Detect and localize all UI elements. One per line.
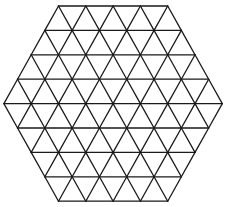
diagonal-grid-line xyxy=(127,128,141,152)
diagonal-grid-line xyxy=(168,30,182,54)
diagonal-grid-line xyxy=(140,79,154,103)
diagonal-grid-line xyxy=(154,6,168,30)
diagonal-grid-line xyxy=(140,55,154,79)
diagonal-grid-line xyxy=(127,6,141,30)
diagonal-grid-line xyxy=(140,104,154,128)
diagonal-grid-line xyxy=(195,55,209,79)
diagonal-grid-line xyxy=(72,6,86,30)
diagonal-grid-line xyxy=(195,128,209,152)
diagonal-grid-line xyxy=(18,79,32,103)
diagonal-grid-line xyxy=(209,104,223,128)
diagonal-grid-line xyxy=(31,30,45,54)
diagonal-grid-line xyxy=(140,30,154,54)
diagonal-grid-line xyxy=(59,177,73,201)
diagonal-grid-line xyxy=(86,177,100,201)
diagonal-grid-line xyxy=(140,128,154,152)
diagonal-grid-line xyxy=(99,55,113,79)
diagonal-grid-line xyxy=(72,30,86,54)
diagonal-grid-line xyxy=(154,128,168,152)
diagonal-grid-line xyxy=(168,152,182,176)
diagonal-grid-line xyxy=(113,128,127,152)
diagonal-grid-line xyxy=(113,79,127,103)
diagonal-grid-line xyxy=(72,128,86,152)
diagonal-grid-line xyxy=(86,30,100,54)
diagonal-grid-line xyxy=(59,128,73,152)
diagonal-grid-line xyxy=(154,30,168,54)
diagonal-grid-line xyxy=(31,55,45,79)
diagonal-grid-line xyxy=(154,152,168,176)
diagonal-grid-line xyxy=(195,79,209,103)
diagonal-grid-line xyxy=(99,104,113,128)
diagonal-grid-line xyxy=(168,104,182,128)
diagonal-grid-line xyxy=(72,152,86,176)
diagonal-grid-line xyxy=(181,79,195,103)
diagonal-grid-line xyxy=(45,79,59,103)
diagonal-grid-line xyxy=(4,104,18,128)
diagonal-grid-line xyxy=(168,128,182,152)
diagonal-grid-line xyxy=(45,6,59,30)
diagonal-grid-line xyxy=(127,55,141,79)
diagonal-grid-line xyxy=(45,152,59,176)
diagonal-grid-line xyxy=(154,55,168,79)
diagonal-grid-line xyxy=(195,104,209,128)
diagonal-grid-line xyxy=(4,79,18,103)
diagonal-grid-line xyxy=(140,152,154,176)
diagonal-grid-line xyxy=(45,55,59,79)
diagonal-grid-line xyxy=(154,104,168,128)
diagonal-grid-line xyxy=(99,128,113,152)
diagonal-grid-line xyxy=(59,152,73,176)
diagonal-grid-line xyxy=(45,128,59,152)
diagonal-grid-line xyxy=(127,79,141,103)
diagonal-grid-line xyxy=(168,177,182,201)
diagonal-grid-line xyxy=(168,6,182,30)
diagonal-grid-line xyxy=(59,30,73,54)
diagonal-grid-line xyxy=(86,152,100,176)
diagonal-grid-line xyxy=(113,177,127,201)
diagonal-grid-line xyxy=(154,177,168,201)
diagonal-grid-line xyxy=(45,104,59,128)
diagonal-grid-line xyxy=(31,152,45,176)
triangular-grid-hexagon-diagram xyxy=(0,0,231,207)
diagonal-grid-line xyxy=(181,152,195,176)
diagonal-grid-line xyxy=(209,79,223,103)
diagonal-grid-line xyxy=(72,79,86,103)
diagonal-grid-line xyxy=(59,104,73,128)
diagonal-grid-line xyxy=(99,152,113,176)
diagonal-grid-line xyxy=(113,55,127,79)
diagonal-grid-line xyxy=(86,6,100,30)
diagonal-grid-line xyxy=(59,79,73,103)
diagonal-grid-line xyxy=(72,177,86,201)
diagonal-grid-line xyxy=(31,104,45,128)
diagonal-grid-line xyxy=(181,55,195,79)
diagonal-grid-line xyxy=(72,55,86,79)
hexagon-triangle-grid xyxy=(0,0,231,207)
diagonal-grid-line xyxy=(45,30,59,54)
diagonal-grid-line xyxy=(72,104,86,128)
diagonal-grid-line xyxy=(59,6,73,30)
diagonal-grid-line xyxy=(181,30,195,54)
diagonal-grid-line xyxy=(113,30,127,54)
diagonal-grid-line xyxy=(140,177,154,201)
diagonal-grid-line xyxy=(86,55,100,79)
diagonal-grid-line xyxy=(86,79,100,103)
diagonal-grid-line xyxy=(113,152,127,176)
diagonal-grid-line xyxy=(127,152,141,176)
diagonal-grid-line xyxy=(18,104,32,128)
diagonal-grid-line xyxy=(86,128,100,152)
diagonal-grid-line xyxy=(99,6,113,30)
diagonal-grid-line xyxy=(99,79,113,103)
diagonal-grid-line xyxy=(127,177,141,201)
diagonal-grid-line xyxy=(31,128,45,152)
diagonal-grid-line xyxy=(59,55,73,79)
diagonal-grid-line xyxy=(18,128,32,152)
diagonal-grid-line xyxy=(127,30,141,54)
diagonal-grid-line xyxy=(113,6,127,30)
diagonal-grid-line xyxy=(168,55,182,79)
diagonal-grid-line xyxy=(181,104,195,128)
diagonal-grid-line xyxy=(168,79,182,103)
diagonal-grid-line xyxy=(113,104,127,128)
diagonal-grid-line xyxy=(154,79,168,103)
diagonal-grid-line xyxy=(18,55,32,79)
diagonal-grid-line xyxy=(140,6,154,30)
diagonal-grid-line xyxy=(181,128,195,152)
